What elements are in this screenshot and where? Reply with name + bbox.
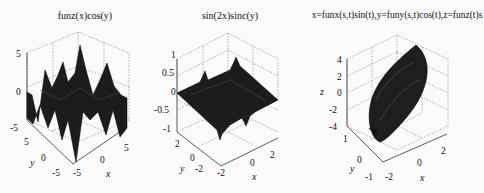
x-tick: 0	[250, 158, 255, 168]
z-tick: -1	[163, 124, 171, 134]
x-tick: 0	[417, 158, 422, 168]
y-tick: 1	[343, 134, 348, 144]
y-tick: -5	[52, 168, 60, 178]
x-tick: 0	[100, 155, 105, 165]
z-tick: 0.5	[162, 68, 174, 78]
x-tick: -2	[217, 168, 225, 178]
y-tick: 0	[357, 155, 362, 165]
z-tick: 0	[16, 87, 21, 97]
x-tick: -5	[73, 168, 81, 178]
x-tick: 2	[441, 146, 446, 156]
z-tick: 0	[171, 87, 176, 97]
z-tick: -5	[10, 123, 18, 133]
z-tick: 5	[16, 49, 21, 59]
z-tick: -4	[329, 122, 337, 132]
y-axis-label: y	[30, 157, 34, 168]
surface-mesh	[369, 45, 427, 142]
y-tick: 0	[41, 153, 46, 163]
y-tick: 0	[190, 153, 195, 163]
surface-mesh	[27, 45, 127, 162]
y-tick: 5	[24, 137, 29, 147]
chart-panel-2: sin(2x)sinc(y) 1 0.5 0 -0.5 -1 2 0 -2 -2…	[150, 0, 320, 193]
x-axis-label: x	[252, 171, 256, 182]
x-axis-label: x	[106, 168, 110, 179]
z-tick: 2	[337, 72, 342, 82]
z-tick: -2	[329, 105, 337, 115]
y-tick: 2	[175, 139, 180, 149]
surface-plot-1	[0, 0, 160, 193]
x-tick: 2	[270, 150, 275, 160]
x-tick: -2	[385, 172, 393, 182]
x-axis-label: x	[420, 172, 424, 183]
z-tick: 4	[337, 55, 342, 65]
y-tick: -2	[195, 164, 203, 174]
y-axis-label: y	[180, 163, 184, 174]
y-tick: -1	[365, 172, 373, 182]
z-tick: 0	[337, 88, 342, 98]
chart-panel-1: funz(x)cos(y) 5 0 -5 5 0 -5 -5 0 5 y x	[0, 0, 160, 193]
z-tick: -0.5	[154, 105, 169, 115]
y-axis-label: y	[350, 163, 354, 174]
x-tick: 5	[124, 143, 129, 153]
chart-panel-3: x=funx(s,t)sin(t),y=funy(s,t)cos(t),z=fu…	[310, 0, 484, 193]
z-axis-label: z	[320, 86, 324, 97]
z-tick: 1	[171, 50, 176, 60]
